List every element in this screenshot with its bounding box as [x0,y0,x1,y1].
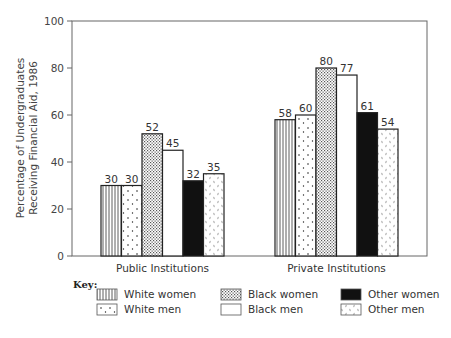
bar-value-label: 45 [166,137,179,149]
legend-label: Black women [248,288,318,300]
legend-swatch [221,304,241,315]
y-axis-label-line: Receiving Financial Aid, 1986 [27,61,39,215]
bar-value-label: 30 [125,173,138,185]
y-tick-label: 60 [51,109,64,121]
bar-value-label: 60 [299,102,312,114]
legend-swatch [341,304,361,315]
category-label: Private Institutions [287,262,386,274]
y-tick-label: 20 [51,203,64,215]
legend-label: Black men [248,303,303,315]
legend-label: Other men [368,303,425,315]
bar [101,186,122,257]
y-axis-ticks: 020406080100 [44,15,72,262]
legend-label: Other women [368,288,440,300]
bar-chart: Percentage of UndergraduatesReceiving Fi… [0,0,451,338]
category-labels: Public InstitutionsPrivate Institutions [116,262,386,274]
legend-swatch [97,289,117,300]
bar [183,181,204,256]
y-axis-label: Percentage of UndergraduatesReceiving Fi… [14,58,39,219]
bar [337,75,358,256]
bar-value-label: 52 [146,121,159,133]
y-tick-label: 0 [57,250,64,262]
legend-swatch [221,289,241,300]
bar-value-label: 35 [207,161,220,173]
legend-label: White women [124,288,196,300]
y-axis-label-line: Percentage of Undergraduates [14,58,26,219]
bar [122,186,143,257]
bar [275,120,296,256]
bar-value-label: 32 [187,168,200,180]
y-tick-label: 100 [44,15,64,27]
legend-title: Key: [73,279,97,290]
legend-swatch [341,289,361,300]
y-tick-label: 40 [51,156,64,168]
bar-value-label: 58 [279,107,292,119]
bar-value-label: 80 [320,55,333,67]
bar-value-label: 77 [340,62,353,74]
bar-value-label: 30 [105,173,118,185]
bar [316,68,337,256]
legend-swatch [97,304,117,315]
bar [142,134,163,256]
legend-label: White men [124,303,181,315]
bar-value-label: 54 [381,116,395,128]
bar [296,115,317,256]
bar [378,129,399,256]
bars: 303052453235586080776154 [101,55,398,256]
bar [204,174,225,256]
bar-value-label: 61 [361,100,374,112]
legend: Key:White womenWhite menBlack womenBlack… [73,279,440,315]
y-tick-label: 80 [51,62,64,74]
bar [163,150,184,256]
bar [357,113,378,256]
category-label: Public Institutions [116,262,209,274]
